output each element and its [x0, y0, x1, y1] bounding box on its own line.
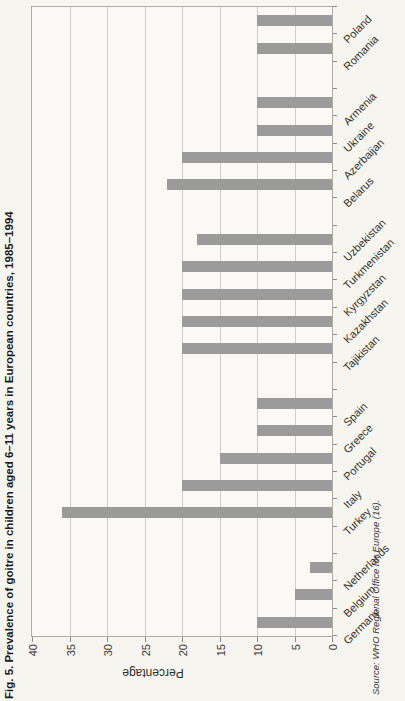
bar-spain	[257, 398, 332, 409]
y-tick-35	[70, 637, 71, 642]
y-tick-label-5: 5	[290, 644, 302, 670]
category-tick-8	[333, 416, 337, 417]
y-tick-label-15: 15	[215, 644, 227, 670]
y-tick-label-10: 10	[252, 644, 264, 670]
bar-romania	[257, 43, 332, 54]
bar-armenia	[257, 97, 332, 108]
category-label-italy: Italy	[341, 487, 364, 510]
category-tick-10	[333, 362, 337, 363]
bar-greece	[257, 425, 332, 436]
bar-kazakhstan	[182, 316, 332, 327]
y-tick-0	[332, 637, 333, 642]
bar-portugal	[220, 453, 333, 464]
category-tick-17	[333, 170, 337, 171]
plot-area	[31, 6, 333, 637]
bar-turkey	[62, 507, 332, 518]
bar-poland	[257, 15, 332, 26]
category-tick-3	[333, 553, 337, 554]
bar-kyrgyzstan	[182, 289, 332, 300]
category-tick-23	[333, 6, 337, 7]
bar-belgium	[295, 589, 333, 600]
bar-azerbaijan	[182, 152, 332, 163]
bar-netherlands	[310, 562, 333, 573]
bar-belarus	[167, 179, 332, 190]
y-tick-10	[257, 637, 258, 642]
bar-italy	[182, 480, 332, 491]
gridline-25	[145, 7, 146, 636]
category-tick-7	[333, 444, 337, 445]
y-tick-20	[182, 637, 183, 642]
category-tick-9	[333, 389, 337, 390]
y-tick-30	[107, 637, 108, 642]
category-tick-15	[333, 225, 337, 226]
figure-title: Fig. 5. Prevalence of goitre in children…	[3, 211, 15, 699]
category-tick-6	[333, 471, 337, 472]
bar-germany	[257, 617, 332, 628]
category-tick-11	[333, 334, 337, 335]
category-label-armenia: Armenia	[341, 90, 378, 127]
category-tick-22	[333, 33, 337, 34]
y-tick-5	[295, 637, 296, 642]
gridline-30	[107, 7, 108, 636]
category-tick-13	[333, 279, 337, 280]
y-tick-label-0: 0	[327, 644, 339, 670]
category-tick-19	[333, 115, 337, 116]
category-tick-18	[333, 143, 337, 144]
y-tick-40	[32, 637, 33, 642]
category-tick-1	[333, 608, 337, 609]
bar-uzbekistan	[197, 234, 332, 245]
y-tick-label-25: 25	[140, 644, 152, 670]
category-tick-2	[333, 580, 337, 581]
category-tick-20	[333, 88, 337, 89]
bar-tajikistan	[182, 343, 332, 354]
category-tick-5	[333, 498, 337, 499]
category-tick-16	[333, 197, 337, 198]
y-tick-label-40: 40	[27, 644, 39, 670]
bar-ukraine	[257, 125, 332, 136]
y-tick-label-30: 30	[102, 644, 114, 670]
gridline-35	[70, 7, 71, 636]
category-tick-21	[333, 61, 337, 62]
category-tick-0	[333, 635, 337, 636]
category-tick-12	[333, 307, 337, 308]
category-label-turkey: Turkey	[341, 505, 373, 537]
y-tick-label-20: 20	[177, 644, 189, 670]
y-tick-label-35: 35	[65, 644, 77, 670]
category-tick-4	[333, 526, 337, 527]
category-tick-14	[333, 252, 337, 253]
y-tick-25	[145, 637, 146, 642]
figure-canvas: Fig. 5. Prevalence of goitre in children…	[0, 0, 405, 701]
category-label-belarus: Belarus	[341, 174, 376, 209]
y-tick-15	[220, 637, 221, 642]
bar-turkmenistan	[182, 261, 332, 272]
